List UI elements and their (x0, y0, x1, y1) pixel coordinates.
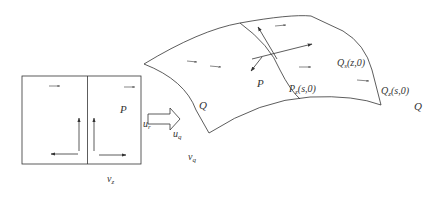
label-Q-left: Q (199, 100, 207, 111)
surface-bottom-edge (209, 97, 381, 133)
label-P-surface: P (257, 78, 264, 89)
diagram-canvas (0, 0, 439, 198)
label-Q-right: Q (414, 101, 422, 112)
label-P-s0: Pz(s,0) (289, 84, 316, 96)
flow-arrows-rectangle (49, 86, 135, 87)
basis-vectors-right (94, 118, 126, 155)
flow-arrows-surface (187, 25, 369, 81)
label-u-r: ur (143, 119, 151, 131)
label-v-q: vq (188, 152, 196, 164)
surface-top-edge (144, 16, 311, 64)
label-v-z: vz (107, 174, 114, 186)
label-u-q: uq (173, 129, 182, 141)
label-P-domain: P (120, 104, 127, 115)
mapping-arrow-icon (148, 108, 180, 130)
curved-surface (144, 16, 381, 133)
label-Q-s0: Qz(s,0) (381, 86, 409, 98)
basis-vectors-surface (251, 27, 312, 71)
basis-vectors-left (51, 118, 79, 154)
parameter-domain-rectangle (22, 76, 141, 164)
label-Q-z0: Qs(z,0) (337, 58, 365, 70)
